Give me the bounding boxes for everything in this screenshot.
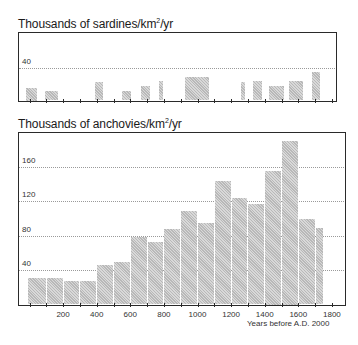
bar [97,265,113,305]
x-tick [231,99,232,103]
x-tick [332,99,333,103]
x-tick [315,303,316,307]
bar [28,278,45,305]
bar [198,223,214,304]
sardine-chart-title: Thousands of sardines/km2/yr [18,17,173,31]
x-tick [80,303,81,307]
bar [64,281,80,304]
x-tick [265,99,266,103]
x-tick [63,303,64,307]
x-tick [114,99,115,103]
x-axis-title: Years before A.D. 2000 [247,319,329,328]
x-tick [282,303,283,307]
x-tick [97,99,98,103]
bar [148,242,164,305]
y-tick-label: 120 [22,190,35,199]
x-tick [46,99,47,103]
bar [232,198,248,305]
bar [282,141,298,305]
bar [26,88,38,100]
x-tick-label: 400 [90,310,103,319]
x-tick [181,99,182,103]
x-tick [248,99,249,103]
x-tick [164,99,165,103]
bar [265,171,281,305]
x-tick [164,303,165,307]
bar [299,219,315,304]
y-tick-label: 40 [22,259,31,268]
x-tick [97,303,98,307]
x-tick [282,99,283,103]
bar [114,262,130,304]
x-tick-label: 1400 [256,310,274,319]
x-tick-label: 1800 [323,310,341,319]
x-tick [315,99,316,103]
x-tick [198,99,199,103]
x-tick [46,303,47,307]
x-tick [214,99,215,103]
bar [316,228,323,305]
bar [185,77,209,100]
x-tick [80,99,81,103]
bar [289,81,303,101]
bar [141,86,150,100]
bar [131,237,147,304]
x-tick-label: 200 [56,310,69,319]
x-tick [30,303,31,307]
bar [241,82,245,100]
x-tick [147,303,148,307]
x-tick [130,303,131,307]
bar [215,181,231,304]
x-tick [30,99,31,103]
x-tick [265,303,266,307]
x-tick-label: 1000 [189,310,207,319]
x-tick [114,303,115,307]
x-tick [298,303,299,307]
x-tick-label: 1600 [289,310,307,319]
bar [159,81,163,101]
anchovy-chart-title: Thousands of anchovies/km2/yr [18,117,182,131]
x-tick [198,303,199,307]
x-tick [332,303,333,307]
bar [312,72,320,100]
bar [253,81,262,101]
x-tick [214,303,215,307]
x-tick [181,303,182,307]
x-tick [298,99,299,103]
x-tick [130,99,131,103]
bar [47,278,63,305]
gridline [19,68,335,69]
x-tick [147,99,148,103]
x-tick [231,303,232,307]
x-tick-label: 800 [157,310,170,319]
bar [181,211,197,304]
y-tick-label: 160 [22,156,35,165]
x-tick [63,99,64,103]
y-tick-label: 40 [22,57,31,66]
bar [164,229,180,305]
y-tick-label: 80 [22,225,31,234]
x-tick-label: 600 [124,310,137,319]
bar [80,281,96,304]
x-tick [248,303,249,307]
x-tick-label: 1200 [222,310,240,319]
bar [248,204,264,304]
